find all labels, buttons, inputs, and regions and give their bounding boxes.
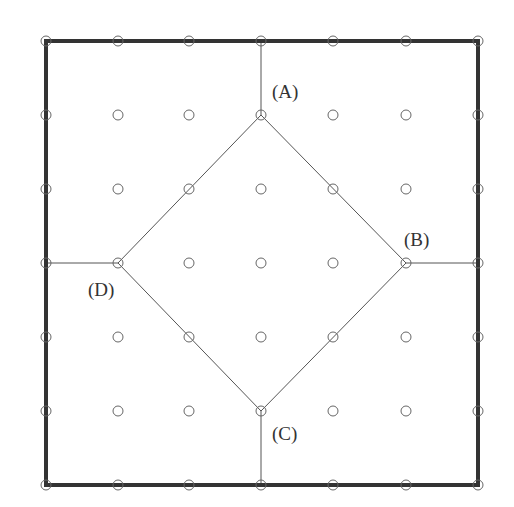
grid-point [256, 332, 266, 342]
grid-point [401, 184, 411, 194]
label-c: (C) [272, 424, 297, 443]
lattice-diagram [0, 0, 514, 507]
grid-point [401, 332, 411, 342]
grid-point [328, 406, 338, 416]
grid-point [401, 406, 411, 416]
grid-point [328, 258, 338, 268]
grid-point [113, 110, 123, 120]
grid-point [184, 258, 194, 268]
diamond-outline [118, 115, 406, 411]
label-b: (B) [404, 230, 429, 249]
grid-point [401, 110, 411, 120]
diamond-shape [118, 115, 406, 411]
connector-lines [46, 41, 478, 485]
label-a: (A) [272, 82, 298, 101]
grid-point [184, 110, 194, 120]
grid-point [113, 332, 123, 342]
grid-point [328, 110, 338, 120]
label-d: (D) [88, 280, 114, 299]
grid-point [184, 406, 194, 416]
grid-point [256, 184, 266, 194]
grid-point [256, 258, 266, 268]
grid-point [113, 184, 123, 194]
grid-point [113, 406, 123, 416]
